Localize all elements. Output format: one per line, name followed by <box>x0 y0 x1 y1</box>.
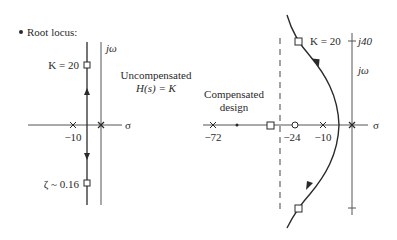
damping-marker-square-icon <box>84 180 90 186</box>
right-real-axis-label: σ <box>373 119 379 131</box>
arrow-up-icon <box>84 88 90 95</box>
arrow-down-icon <box>306 181 313 190</box>
right-title-line1: Compensated <box>204 88 264 100</box>
left-pole-label: −10 <box>64 131 82 143</box>
root-locus-figure: Root locus: jω σ K = 20 ζ ~ 0.16 −10 Unc… <box>0 0 397 240</box>
pole-label-10: −10 <box>314 131 332 143</box>
left-real-axis-label: σ <box>125 119 131 131</box>
zero-circle-icon <box>292 122 298 128</box>
left-title-line2: H(s) = K <box>135 82 176 95</box>
right-root-locus: σ jω j40 K = 20 −72 −10 −24 Compensated … <box>203 15 379 228</box>
right-imag-axis-label: jω <box>356 64 369 76</box>
arrow-up-icon <box>311 57 320 67</box>
right-gain-label: K = 20 <box>310 35 341 47</box>
gain-marker-square-icon <box>295 38 302 45</box>
left-imag-axis-label: jω <box>104 42 117 54</box>
heading-title: Root locus: <box>27 26 77 38</box>
bullet-icon <box>19 30 23 34</box>
pole-label-72: −72 <box>204 131 221 143</box>
zero-label: −24 <box>283 131 301 143</box>
arrow-down-icon <box>84 153 90 160</box>
gain-marker-square-icon <box>295 205 302 212</box>
right-title-line2: design <box>220 101 249 113</box>
left-root-locus: jω σ K = 20 ζ ~ 0.16 −10 Uncompensated H… <box>28 42 192 205</box>
left-damping-label: ζ ~ 0.16 <box>44 178 80 191</box>
gain-marker-square-icon <box>84 62 90 68</box>
real-axis-marker-square-icon <box>267 122 274 129</box>
left-title-line1: Uncompensated <box>121 69 192 81</box>
imag-tick-label: j40 <box>356 35 373 47</box>
real-axis-dot-icon <box>236 124 239 127</box>
left-gain-label: K = 20 <box>48 59 79 71</box>
